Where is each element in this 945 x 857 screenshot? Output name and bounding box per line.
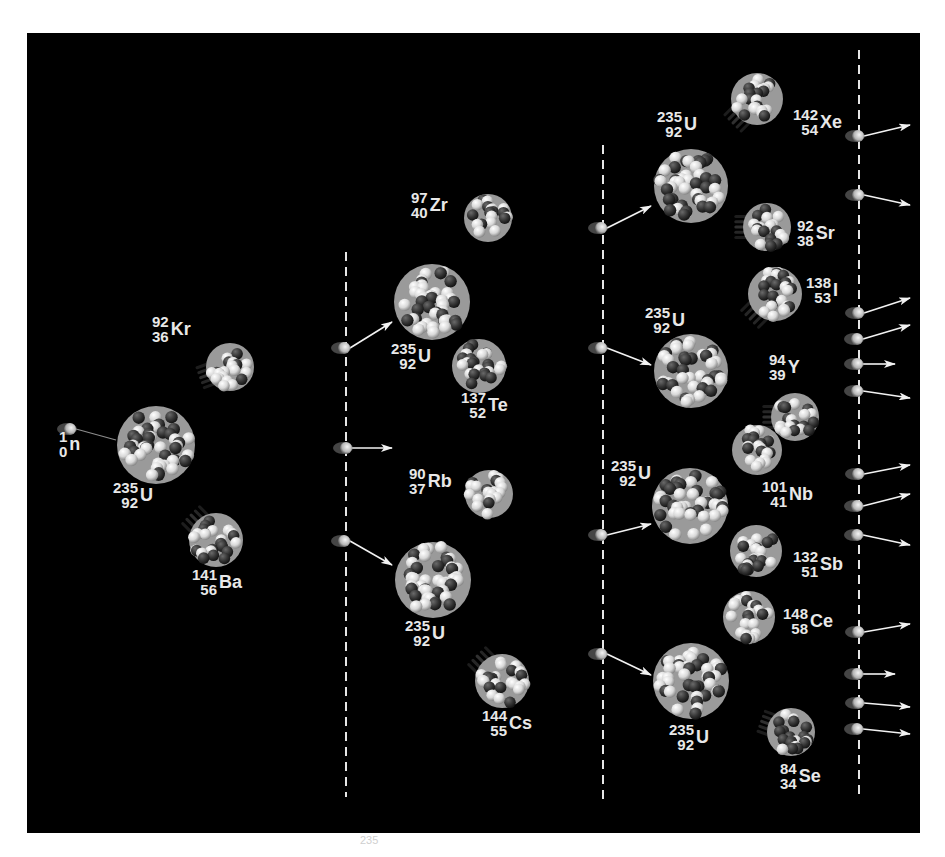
neutron-particle bbox=[788, 716, 800, 728]
neutron-particle bbox=[466, 378, 478, 390]
neutron-direction-arrow bbox=[607, 524, 651, 535]
nuclide-numbers: 10141 bbox=[762, 479, 787, 509]
mass-number: 235 bbox=[611, 458, 636, 473]
proton-particle bbox=[780, 427, 792, 439]
mass-number: 235 bbox=[669, 722, 694, 737]
fragment-nucleus-y94 bbox=[771, 393, 819, 441]
mass-number: 235 bbox=[113, 480, 138, 495]
isotope-label-nb: 10141Nb bbox=[762, 479, 813, 509]
nuclide-numbers: 14858 bbox=[783, 606, 808, 636]
atomic-number: 92 bbox=[391, 356, 416, 371]
neutron-direction-arrow bbox=[864, 465, 910, 474]
nuclide-numbers: 14254 bbox=[793, 107, 818, 137]
neutron-particle bbox=[704, 201, 716, 213]
neutron-icon bbox=[595, 342, 607, 354]
neutron-particle bbox=[759, 110, 771, 122]
proton-particle bbox=[472, 199, 484, 211]
neutron-particle bbox=[689, 680, 701, 692]
mass-number: 92 bbox=[152, 314, 169, 329]
proton-particle bbox=[777, 744, 789, 756]
proton-particle bbox=[782, 285, 794, 297]
element-symbol: Ce bbox=[810, 612, 833, 630]
uranium-nucleus-u235-gen0 bbox=[117, 406, 195, 484]
element-symbol: Xe bbox=[820, 113, 842, 131]
proton-particle bbox=[125, 454, 137, 466]
caption-fragment: 235 bbox=[360, 834, 378, 846]
isotope-label-u-gen1b: 23592U bbox=[405, 618, 445, 648]
proton-particle bbox=[496, 659, 508, 671]
element-symbol: Ba bbox=[219, 573, 242, 591]
atomic-number: 58 bbox=[783, 621, 808, 636]
proton-particle bbox=[715, 374, 727, 386]
neutron-icon bbox=[595, 648, 607, 660]
fragment-nucleus-ce148 bbox=[723, 591, 775, 644]
neutron-direction-arrow bbox=[864, 298, 910, 313]
proton-particle bbox=[494, 364, 506, 376]
proton-particle bbox=[200, 528, 212, 540]
neutron-particle bbox=[664, 204, 676, 216]
proton-particle bbox=[779, 305, 791, 317]
mass-number: 137 bbox=[461, 390, 486, 405]
fragment-nucleus-cs144 bbox=[475, 654, 530, 708]
isotope-label-u-gen0: 23592U bbox=[113, 480, 153, 510]
neutron-particle bbox=[499, 212, 511, 224]
neutron-particle bbox=[780, 402, 792, 414]
proton-particle bbox=[489, 225, 501, 237]
uranium-nucleus-u235-gen2b bbox=[654, 334, 728, 408]
neutron-direction-arrow bbox=[864, 195, 910, 205]
element-symbol: Te bbox=[488, 396, 508, 414]
isotope-label-ba: 14156Ba bbox=[192, 567, 242, 597]
atomic-number: 56 bbox=[192, 582, 217, 597]
neutron-particle bbox=[705, 385, 717, 397]
nuclide-numbers: 13251 bbox=[793, 549, 818, 579]
free-neutron-n-g3-13 bbox=[844, 723, 910, 735]
neutron-icon bbox=[852, 697, 864, 709]
free-neutron-n-g3-12 bbox=[845, 697, 910, 709]
neutron-direction-arrow bbox=[863, 729, 910, 734]
free-neutron-n-g3-3 bbox=[845, 298, 910, 319]
atomic-number: 0 bbox=[59, 444, 67, 459]
element-symbol: U bbox=[432, 624, 445, 642]
neutron-direction-arrow bbox=[863, 325, 910, 339]
proton-particle bbox=[472, 500, 484, 512]
proton-particle bbox=[477, 349, 489, 361]
atomic-number: 40 bbox=[411, 205, 428, 220]
neutron-particle bbox=[448, 296, 460, 308]
neutron-particle bbox=[435, 267, 447, 279]
isotope-label-zr: 9740Zr bbox=[411, 190, 448, 220]
neutron-icon bbox=[851, 358, 863, 370]
nuclide-numbers: 23592 bbox=[113, 480, 138, 510]
proton-particle bbox=[726, 611, 738, 623]
isotope-label-ce: 14858Ce bbox=[783, 606, 833, 636]
isotope-label-sb: 13251Sb bbox=[793, 549, 843, 579]
proton-particle bbox=[765, 557, 777, 569]
neutron-direction-arrow bbox=[863, 535, 910, 545]
proton-particle bbox=[767, 310, 779, 322]
neutron-particle bbox=[485, 372, 497, 384]
proton-particle bbox=[728, 599, 740, 611]
proton-particle bbox=[705, 358, 717, 370]
isotope-label-kr: 9236Kr bbox=[152, 314, 191, 344]
neutron-direction-arrow bbox=[864, 125, 910, 136]
neutron-particle bbox=[663, 193, 675, 205]
neutron-icon bbox=[851, 529, 863, 541]
atomic-number: 92 bbox=[669, 737, 694, 752]
mass-number: 235 bbox=[657, 109, 682, 124]
neutron-particle bbox=[198, 552, 210, 564]
neutron-icon bbox=[338, 342, 350, 354]
isotope-label-te: 13752Te bbox=[461, 390, 508, 420]
nuclide-numbers: 9238 bbox=[797, 218, 814, 248]
mass-number: 235 bbox=[645, 305, 670, 320]
neutron-direction-arrow bbox=[607, 654, 651, 675]
fragment-nucleus-rb90 bbox=[464, 470, 513, 520]
atomic-number: 92 bbox=[405, 633, 430, 648]
neutron-particle bbox=[689, 707, 701, 719]
free-neutron-n-g1-3 bbox=[331, 535, 392, 565]
fragment-nucleus-sr92 bbox=[743, 203, 791, 252]
fragment-nucleus-nb101 bbox=[732, 425, 782, 476]
free-neutron-n-g3-2 bbox=[845, 189, 910, 205]
element-symbol: Sb bbox=[820, 555, 843, 573]
free-neutron-n-g2-1 bbox=[588, 206, 651, 234]
atomic-number: 39 bbox=[769, 367, 786, 382]
neutron-icon bbox=[595, 222, 607, 234]
